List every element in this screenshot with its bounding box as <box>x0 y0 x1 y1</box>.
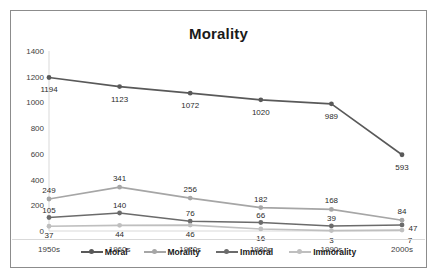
data-point-label: 84 <box>398 207 407 216</box>
chart-container: Morality 02004006008001000120014001950s1… <box>10 10 427 268</box>
data-point <box>258 97 263 102</box>
legend-marker-icon <box>144 248 166 256</box>
chart-title: Morality <box>11 25 426 42</box>
legend-marker-icon <box>289 248 311 256</box>
y-axis-tick-label: 600 <box>31 149 44 158</box>
data-point <box>117 223 122 228</box>
data-point-label: 168 <box>325 196 338 205</box>
chart-legend: MoralMoralityImmoralImmorality <box>11 247 426 257</box>
data-point <box>258 227 263 232</box>
series-line-moral <box>49 77 402 154</box>
data-point <box>400 228 405 233</box>
data-point-label: 66 <box>256 210 265 219</box>
data-point <box>47 197 52 202</box>
legend-marker-icon <box>216 248 238 256</box>
legend-divider <box>12 239 425 240</box>
data-point <box>47 75 52 80</box>
data-point <box>258 220 263 225</box>
legend-item-label: Immoral <box>240 247 273 257</box>
data-point-label: 39 <box>327 213 336 222</box>
data-point-label: 1020 <box>252 107 270 116</box>
y-axis-tick-label: 400 <box>31 175 44 184</box>
data-point-label: 182 <box>254 194 267 203</box>
data-point-label: 44 <box>115 230 124 239</box>
legend-item-label: Morality <box>168 247 201 257</box>
data-point-label: 249 <box>42 185 55 194</box>
data-point-label: 47 <box>409 223 418 232</box>
data-point-label: 1123 <box>111 94 128 103</box>
data-point <box>117 84 122 89</box>
data-point <box>400 218 405 223</box>
data-point-label: 76 <box>186 209 195 218</box>
data-point <box>329 228 334 233</box>
legend-marker-icon <box>81 248 103 256</box>
data-point-label: 1072 <box>181 101 199 110</box>
y-axis-tick-label: 1400 <box>26 47 44 56</box>
data-point <box>117 211 122 216</box>
data-point <box>400 152 405 157</box>
data-point-label: 7 <box>408 236 412 245</box>
data-point-label: 256 <box>184 185 197 194</box>
data-point <box>47 215 52 220</box>
legend-item-immorality[interactable]: Immorality <box>289 247 356 257</box>
data-point <box>188 91 193 96</box>
legend-item-morality[interactable]: Morality <box>144 247 201 257</box>
y-axis-tick-label: 0 <box>40 227 44 236</box>
data-point <box>329 224 334 229</box>
data-point-label: 16 <box>256 233 265 242</box>
y-axis-tick-label: 800 <box>31 124 44 133</box>
data-point-label: 341 <box>113 174 126 183</box>
legend-item-label: Moral <box>105 247 128 257</box>
data-point <box>188 196 193 201</box>
data-point-label: 140 <box>113 201 126 210</box>
series-line-immoral <box>49 213 402 226</box>
data-point <box>47 224 52 229</box>
data-point <box>329 207 334 212</box>
data-point <box>400 223 405 228</box>
chart-plot-svg <box>49 51 402 231</box>
plot-area: 02004006008001000120014001950s1960s1970s… <box>49 51 402 231</box>
legend-item-immoral[interactable]: Immoral <box>216 247 273 257</box>
chart-axis-lines <box>49 51 402 231</box>
series-line-morality <box>49 187 402 220</box>
data-point-label: 593 <box>395 162 408 171</box>
data-point-label: 1194 <box>40 85 57 94</box>
data-point <box>329 101 334 106</box>
data-point <box>188 223 193 228</box>
data-point-label: 105 <box>42 205 55 214</box>
legend-item-moral[interactable]: Moral <box>81 247 128 257</box>
y-axis-tick-label: 1200 <box>26 72 44 81</box>
data-point <box>117 185 122 190</box>
data-point-label: 46 <box>186 230 195 239</box>
legend-item-label: Immorality <box>313 247 356 257</box>
data-point-label: 989 <box>325 111 338 120</box>
y-axis-tick-label: 1000 <box>26 98 44 107</box>
